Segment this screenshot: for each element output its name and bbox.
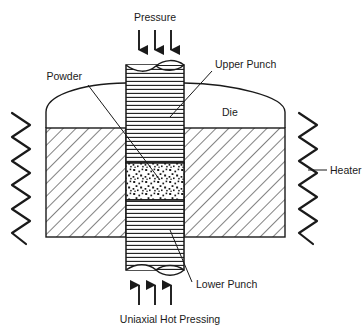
lower-punch-body [126, 200, 184, 270]
die-dome-left [46, 83, 126, 128]
heater-zigzag-left [12, 113, 30, 244]
reaction-arrows [139, 285, 171, 305]
label-powder: Powder [46, 70, 82, 82]
label-die: Die [222, 106, 238, 118]
die-block-left [46, 128, 126, 237]
caption-uniaxial-hot-pressing: Uniaxial Hot Pressing [120, 313, 221, 325]
heater-zigzag-right [299, 113, 317, 244]
figure-canvas: Pressure Upper Punch Die Heater Powder L… [0, 0, 363, 333]
pressure-arrows [139, 30, 171, 50]
label-upper-punch: Upper Punch [215, 58, 276, 70]
lower-punch-part [126, 200, 184, 275]
die-block-right [184, 128, 285, 237]
upper-punch-body [126, 65, 184, 163]
uniaxial-hot-pressing-diagram: Pressure Upper Punch Die Heater Powder L… [0, 0, 363, 333]
label-heater: Heater [330, 164, 362, 176]
label-pressure: Pressure [134, 11, 176, 23]
powder-compact [126, 163, 184, 200]
label-lower-punch: Lower Punch [196, 278, 257, 290]
